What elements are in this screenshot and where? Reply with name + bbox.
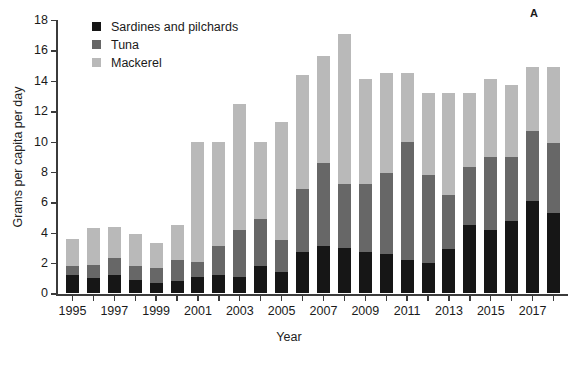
y-tick-mark xyxy=(51,202,56,203)
bar-segment xyxy=(338,34,351,184)
y-tick-mark xyxy=(51,233,56,234)
x-tick-mark xyxy=(553,295,554,301)
bar-stack xyxy=(150,243,163,293)
y-tick-mark xyxy=(51,172,56,173)
x-tick-mark xyxy=(344,295,345,301)
bar-segment xyxy=(66,266,79,275)
x-tick-mark xyxy=(365,295,366,301)
bar-stack xyxy=(317,56,330,293)
x-tick-mark xyxy=(386,295,387,301)
bar-stack xyxy=(275,122,288,294)
bar-segment xyxy=(191,262,204,277)
x-tick-label: 1997 xyxy=(100,304,128,318)
bar-stack xyxy=(380,73,393,293)
bar-stack xyxy=(359,79,372,293)
bar-segment xyxy=(254,266,267,293)
x-tick-mark xyxy=(490,295,491,301)
bar-segment xyxy=(505,85,518,156)
bar-segment xyxy=(212,246,225,275)
bar-stack xyxy=(442,93,455,293)
y-tick-label: 4 xyxy=(41,226,48,240)
x-tick-label: 2013 xyxy=(435,304,463,318)
bar-segment xyxy=(380,173,393,254)
x-tick-mark xyxy=(281,295,282,301)
bar-segment xyxy=(526,131,539,201)
bar-segment xyxy=(171,225,184,260)
bar-segment xyxy=(87,265,100,279)
chart-legend: Sardines and pilchards Tuna Mackerel xyxy=(92,18,238,72)
y-tick-mark xyxy=(51,263,56,264)
x-tick-mark xyxy=(532,295,533,301)
bar-stack xyxy=(171,225,184,293)
y-axis-label: Grams per capita per day xyxy=(11,77,25,237)
bar-stack xyxy=(463,93,476,293)
bar-segment xyxy=(526,201,539,294)
bar-segment xyxy=(442,249,455,293)
bar-segment xyxy=(422,175,435,263)
y-tick-label: 14 xyxy=(34,74,48,88)
bar-segment xyxy=(150,283,163,294)
bar-segment xyxy=(212,142,225,247)
bar-segment xyxy=(296,252,309,293)
bar-stack xyxy=(108,227,121,294)
bar-segment xyxy=(296,189,309,253)
bar-segment xyxy=(275,272,288,293)
bar-segment xyxy=(380,73,393,173)
bar-segment xyxy=(66,239,79,266)
bar-segment xyxy=(338,184,351,248)
x-tick-mark xyxy=(406,295,407,301)
bar-stack xyxy=(129,234,142,293)
legend-item: Mackerel xyxy=(92,54,238,71)
bar-segment xyxy=(547,67,560,143)
x-tick-label: 2009 xyxy=(351,304,379,318)
bar-stack xyxy=(296,75,309,294)
bar-stack xyxy=(401,73,414,293)
y-tick-label: 2 xyxy=(41,256,48,270)
bar-segment xyxy=(150,243,163,267)
x-tick-label: 2005 xyxy=(268,304,296,318)
legend-swatch-mackerel xyxy=(92,58,101,67)
x-axis-label: Year xyxy=(0,330,578,344)
bar-segment xyxy=(463,225,476,293)
x-tick-mark xyxy=(448,295,449,301)
y-tick-mark xyxy=(51,142,56,143)
bar-segment xyxy=(66,275,79,293)
bar-segment xyxy=(380,254,393,293)
bar-segment xyxy=(108,275,121,293)
bar-segment xyxy=(463,167,476,225)
legend-item: Sardines and pilchards xyxy=(92,18,238,35)
panel-label: A xyxy=(530,7,538,19)
bar-segment xyxy=(108,227,121,259)
x-tick-label: 2011 xyxy=(394,304,421,318)
x-tick-mark xyxy=(427,295,428,301)
bar-segment xyxy=(463,93,476,167)
x-tick-mark xyxy=(197,295,198,301)
bar-segment xyxy=(233,230,246,277)
bar-segment xyxy=(484,157,497,230)
bar-segment xyxy=(401,73,414,141)
bar-segment xyxy=(275,122,288,240)
bar-segment xyxy=(526,67,539,131)
bar-segment xyxy=(359,79,372,184)
bar-stack xyxy=(233,104,246,294)
bar-segment xyxy=(338,248,351,294)
bar-segment xyxy=(129,234,142,266)
x-tick-mark xyxy=(260,295,261,301)
bar-segment xyxy=(150,268,163,283)
bar-segment xyxy=(359,252,372,293)
bar-stack xyxy=(505,85,518,293)
bar-segment xyxy=(505,221,518,294)
bar-segment xyxy=(317,246,330,293)
x-tick-label: 2015 xyxy=(477,304,505,318)
legend-label-tuna: Tuna xyxy=(111,38,139,52)
bar-stack xyxy=(254,142,267,294)
x-tick-mark xyxy=(135,295,136,301)
legend-swatch-sardines xyxy=(92,22,101,31)
x-tick-mark xyxy=(469,295,470,301)
bar-segment xyxy=(359,184,372,252)
bar-segment xyxy=(422,93,435,175)
bar-segment xyxy=(87,228,100,264)
bar-segment xyxy=(505,157,518,221)
bar-segment xyxy=(442,93,455,195)
bar-segment xyxy=(296,75,309,189)
